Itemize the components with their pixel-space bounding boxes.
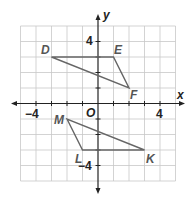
coordinate-plane: y x O −4 4 4 −4 D E F M L K (0, 0, 196, 204)
vertex-label-l: L (75, 152, 82, 166)
vertex-label-f: F (130, 88, 138, 102)
y-axis-bottom-arrow-icon (96, 188, 101, 194)
y-axis-label: y (102, 8, 111, 22)
y-axis-top-arrow-icon (96, 14, 101, 20)
vertex-label-d: D (41, 43, 50, 57)
vertex-label-k: K (146, 152, 156, 166)
tick-label-y-pos4: 4 (86, 34, 93, 48)
origin-label: O (86, 106, 96, 120)
vertex-label-e: E (114, 43, 123, 57)
x-axis-label: x (176, 88, 185, 102)
tick-label-x-neg4: −4 (25, 107, 39, 121)
vertex-label-m: M (54, 113, 65, 127)
x-axis-left-arrow-icon (11, 101, 17, 106)
tick-label-x-pos4: 4 (156, 107, 163, 121)
